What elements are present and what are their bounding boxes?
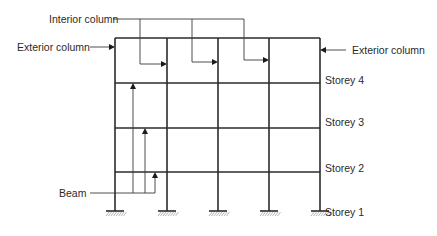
fixed-support-icon: [209, 211, 230, 216]
interior-column-leader: [113, 19, 269, 67]
arrow-icon: [109, 44, 115, 50]
arrow-icon: [212, 59, 218, 65]
supports: [106, 211, 332, 216]
arrow-icon: [152, 172, 158, 178]
storey-2-label: Storey 2: [325, 162, 364, 174]
interior-column-label: Interior column: [49, 13, 119, 25]
arrow-icon: [161, 61, 167, 67]
exterior-column-left-label: Exterior column: [17, 41, 90, 53]
fixed-support-icon: [106, 211, 127, 216]
arrow-icon: [142, 128, 148, 134]
arrow-icon: [130, 83, 136, 89]
storey-4-label: Storey 4: [325, 74, 364, 86]
exterior-column-right-label: Exterior column: [352, 44, 425, 56]
beam-leaders: [90, 83, 158, 193]
arrow-icon: [263, 57, 269, 63]
arrow-icon: [320, 47, 326, 53]
storey-1-label: Storey 1: [325, 206, 364, 218]
fixed-support-icon: [260, 211, 281, 216]
fixed-support-icon: [158, 211, 179, 216]
frame-diagram: Interior column Exterior column Exterior…: [0, 0, 437, 236]
beam-label: Beam: [59, 187, 87, 199]
storey-3-label: Storey 3: [325, 116, 364, 128]
